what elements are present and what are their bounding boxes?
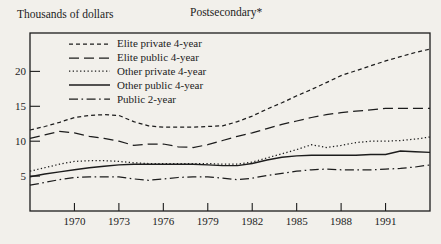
- x-tick-label: 1973: [108, 215, 130, 227]
- dash-dot-line-icon: [69, 94, 110, 104]
- small-dash-line-icon: [69, 39, 110, 49]
- legend-label: Elite public 4-year: [117, 52, 199, 63]
- chart-legend: Elite private 4-year Elite public 4-year…: [69, 37, 206, 106]
- x-tick-label: 1982: [241, 215, 263, 227]
- legend-label: Public 2-year: [117, 94, 176, 105]
- x-tick-label: 1979: [197, 215, 219, 227]
- legend-item: Elite private 4-year: [69, 37, 206, 51]
- x-tick-label: 1988: [330, 215, 352, 227]
- line-chart-plot: [0, 0, 441, 244]
- y-tick-label: 15: [15, 100, 26, 112]
- legend-label: Elite private 4-year: [117, 38, 202, 49]
- dotted-line-icon: [69, 66, 110, 76]
- legend-item: Elite public 4-year: [69, 51, 206, 65]
- solid-line-icon: [69, 80, 110, 90]
- legend-item: Public 2-year: [69, 92, 206, 106]
- legend-item: Other private 4-year: [69, 65, 206, 79]
- y-tick-label: 20: [15, 65, 26, 77]
- x-tick-label: 1991: [375, 215, 397, 227]
- legend-item: Other public 4-year: [69, 78, 206, 92]
- x-tick-label: 1970: [63, 215, 85, 227]
- legend-label: Other public 4-year: [117, 80, 203, 91]
- legend-label: Other private 4-year: [117, 66, 206, 77]
- series-line-solid: [30, 151, 430, 177]
- figure-postsecondary-costs: Thousands of dollars Postsecondary* 1970…: [0, 0, 441, 244]
- y-tick-label: 5: [21, 170, 27, 182]
- x-tick-label: 1985: [286, 215, 308, 227]
- x-tick-label: 1976: [152, 215, 174, 227]
- long-dash-line-icon: [69, 53, 110, 63]
- y-tick-label: 10: [15, 135, 26, 147]
